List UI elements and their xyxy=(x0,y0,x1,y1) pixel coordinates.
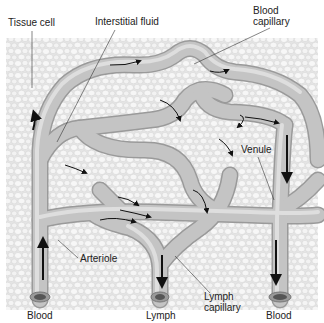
label-lymph-capillary-line2: capillary xyxy=(204,302,241,313)
label-interstitial-fluid: Interstitial fluid xyxy=(95,16,159,27)
label-blood-capillary: Blood capillary xyxy=(253,5,290,27)
label-arteriole: Arteriole xyxy=(80,253,117,264)
label-blood-capillary-line1: Blood xyxy=(253,5,290,16)
label-tissue-cell: Tissue cell xyxy=(8,17,55,28)
lymph-capillary-diagram xyxy=(0,0,324,323)
label-lymph: Lymph xyxy=(146,310,176,321)
label-blood-left: Blood xyxy=(27,310,53,321)
label-blood-capillary-line2: capillary xyxy=(253,16,290,27)
label-lymph-capillary-line1: Lymph xyxy=(204,291,241,302)
label-blood-right: Blood xyxy=(266,310,292,321)
label-lymph-capillary: Lymph capillary xyxy=(204,291,241,313)
label-venule: Venule xyxy=(241,144,272,155)
